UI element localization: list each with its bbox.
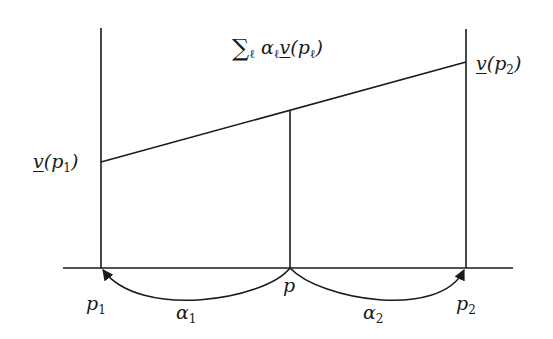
p2-label: p2	[456, 294, 476, 316]
interpolation-line	[101, 62, 466, 162]
alpha2-label: α2	[363, 303, 383, 325]
arc-alpha1	[103, 268, 290, 300]
sum-formula-label: ∑ℓ αℓv(pℓ)	[232, 36, 323, 60]
p1-label: p1	[86, 294, 106, 316]
v-p2-label: v(p2)	[476, 54, 521, 76]
alpha1-label: α1	[176, 303, 196, 325]
arc-alpha2	[290, 268, 464, 300]
p-label: p	[283, 276, 295, 295]
v-p1-label: v(p1)	[33, 152, 78, 174]
